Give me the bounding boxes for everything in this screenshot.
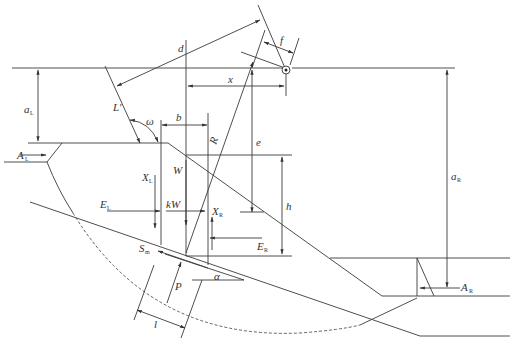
svg-text:R: R bbox=[219, 212, 223, 218]
label-AR: A R bbox=[460, 281, 473, 294]
label-e: e bbox=[256, 136, 261, 148]
slice-base-line bbox=[165, 254, 244, 280]
svg-text:L: L bbox=[107, 205, 111, 211]
f-extension-right bbox=[290, 38, 299, 65]
center-tangent bbox=[241, 52, 285, 68]
diagram-canvas: a L A L L′ ω b d x f R e h W X L E L kW … bbox=[0, 0, 513, 346]
label-f: f bbox=[280, 34, 285, 46]
label-Sm: S m bbox=[139, 242, 150, 255]
label-P: P bbox=[174, 280, 182, 292]
l-dimension bbox=[137, 310, 185, 328]
d-dimension bbox=[117, 20, 260, 86]
svg-text:m: m bbox=[145, 249, 150, 255]
label-aL: a L bbox=[24, 103, 34, 116]
f-dimension bbox=[264, 42, 293, 53]
label-b: b bbox=[176, 111, 182, 123]
svg-text:R: R bbox=[264, 247, 268, 253]
label-ER: E R bbox=[256, 240, 268, 253]
label-L-prime: L′ bbox=[112, 101, 122, 113]
svg-text:A: A bbox=[460, 281, 468, 293]
l-extension-right bbox=[181, 280, 202, 338]
svg-text:R: R bbox=[469, 288, 473, 294]
l-extension-left bbox=[134, 265, 154, 320]
svg-text:A: A bbox=[16, 149, 24, 161]
toe-diagonal bbox=[417, 258, 434, 296]
label-EL: E L bbox=[99, 198, 111, 211]
left-bench-slope bbox=[47, 143, 62, 162]
label-aR: a R bbox=[451, 170, 461, 183]
svg-text:E: E bbox=[99, 198, 107, 210]
label-x: x bbox=[227, 73, 233, 85]
slope-stability-diagram: a L A L L′ ω b d x f R e h W X L E L kW … bbox=[0, 0, 513, 346]
label-alpha: α bbox=[214, 270, 220, 282]
svg-text:L: L bbox=[25, 156, 29, 162]
slope-face bbox=[168, 143, 382, 296]
R-radius-line bbox=[186, 62, 253, 253]
base-inclined-line bbox=[30, 202, 420, 336]
arc-exit-line bbox=[360, 298, 417, 325]
label-omega: ω bbox=[146, 115, 154, 127]
svg-text:L: L bbox=[149, 178, 153, 184]
label-h: h bbox=[286, 200, 292, 212]
svg-text:R: R bbox=[457, 177, 461, 183]
svg-text:L: L bbox=[30, 110, 34, 116]
failure-arc-solid bbox=[47, 162, 73, 213]
label-l: l bbox=[154, 318, 157, 330]
label-W: W bbox=[173, 164, 183, 176]
svg-text:E: E bbox=[256, 240, 264, 252]
label-kW: kW bbox=[166, 198, 181, 210]
label-XL: X L bbox=[141, 171, 153, 184]
f-extension-left bbox=[252, 30, 265, 68]
label-AL: A L bbox=[16, 149, 29, 162]
label-XR: X R bbox=[211, 205, 223, 218]
label-d: d bbox=[178, 42, 184, 54]
rotation-center-dot bbox=[285, 69, 288, 72]
